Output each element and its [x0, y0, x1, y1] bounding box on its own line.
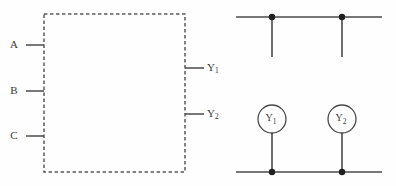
lamp-y1-subscript: 1 [273, 117, 277, 126]
junction-node-top-left [269, 14, 275, 20]
dashed-block-outline [44, 14, 185, 172]
input-b-group: B [10, 84, 44, 96]
lamp-branch-2: Y2 [328, 17, 356, 172]
lamp-branch-1: Y1 [258, 17, 286, 172]
output-y1-base: Y [207, 61, 215, 73]
lamp-y2-base: Y [336, 112, 343, 123]
junction-node-top-right [339, 14, 345, 20]
input-c-label: C [10, 129, 17, 141]
output-y1-group: Y1 [185, 61, 219, 75]
input-b-label: B [10, 84, 17, 96]
output-y2-label: Y2 [207, 107, 219, 121]
lamp-y2-subscript: 2 [343, 117, 347, 126]
lamp-network-group: Y1 Y2 [236, 14, 382, 175]
output-y2-subscript: 2 [215, 112, 219, 121]
output-y1-subscript: 1 [215, 66, 219, 75]
output-y1-label: Y1 [207, 61, 219, 75]
lamp-y1-base: Y [266, 112, 273, 123]
logic-block-group [44, 14, 185, 172]
diagram-canvas: A B C Y1 Y2 [0, 0, 396, 186]
junction-node-bottom-left [269, 169, 275, 175]
output-y2-group: Y2 [185, 107, 219, 121]
junction-node-bottom-right [339, 169, 345, 175]
lamp-y2-label: Y2 [336, 112, 347, 125]
output-y2-base: Y [207, 107, 215, 119]
input-c-group: C [10, 129, 44, 141]
circuit-diagram-svg: A B C Y1 Y2 [0, 0, 396, 186]
input-a-group: A [10, 38, 44, 50]
input-a-label: A [10, 38, 18, 50]
lamp-y1-label: Y1 [266, 112, 277, 125]
